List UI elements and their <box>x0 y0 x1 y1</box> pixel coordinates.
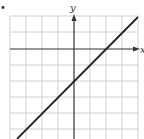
x-axis-arrow-icon <box>133 47 140 52</box>
plotted-line <box>17 17 138 139</box>
x-axis-label: x <box>140 44 144 55</box>
y-axis-arrow-icon <box>72 14 77 21</box>
coordinate-plane: x y <box>0 0 144 139</box>
y-axis-label: y <box>69 2 76 13</box>
axes <box>10 18 136 139</box>
